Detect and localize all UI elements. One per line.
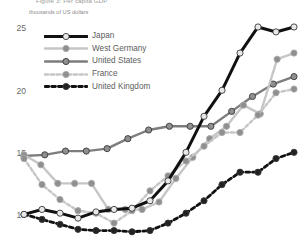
- data-point: [183, 158, 189, 164]
- data-point: [237, 169, 243, 175]
- data-point: [129, 229, 135, 235]
- figure-container: Figure 3: Per capita GDP thousands of US…: [0, 0, 299, 251]
- data-point: [291, 149, 297, 155]
- data-point: [273, 29, 279, 35]
- data-point: [156, 199, 162, 205]
- data-point: [111, 206, 117, 212]
- legend-item-japan[interactable]: Japan: [44, 30, 184, 43]
- data-point: [42, 152, 48, 158]
- data-point: [55, 180, 61, 186]
- data-point: [104, 146, 110, 152]
- data-point: [57, 210, 63, 216]
- legend-item-united-kingdom[interactable]: United Kingdom: [44, 80, 184, 93]
- data-point: [21, 211, 27, 217]
- data-point: [173, 175, 179, 181]
- data-point: [183, 149, 189, 155]
- data-point: [57, 221, 63, 227]
- legend-item-france[interactable]: France: [44, 68, 184, 81]
- data-point: [237, 129, 243, 135]
- legend-swatch-icon: [44, 56, 88, 67]
- data-point: [255, 24, 261, 30]
- data-point: [147, 227, 153, 233]
- data-point: [146, 127, 152, 133]
- data-point: [183, 210, 189, 216]
- data-point: [165, 178, 171, 184]
- data-point: [93, 227, 99, 233]
- legend-item-united-states[interactable]: United States: [44, 55, 184, 68]
- data-point: [291, 50, 297, 56]
- data-point: [219, 129, 225, 135]
- data-point: [166, 123, 172, 129]
- data-point: [255, 169, 261, 175]
- data-point: [75, 208, 81, 214]
- legend-swatch-icon: [44, 31, 88, 42]
- data-point: [75, 215, 81, 221]
- data-point: [147, 188, 153, 194]
- data-point: [273, 155, 279, 161]
- data-point: [83, 148, 89, 154]
- data-point: [255, 112, 261, 118]
- legend-item-label: United States: [88, 57, 141, 65]
- legend-item-label: United Kingdom: [88, 83, 150, 91]
- data-point: [111, 227, 117, 233]
- data-point: [88, 180, 94, 186]
- data-point: [93, 209, 99, 215]
- data-point: [229, 108, 235, 114]
- data-point: [57, 196, 63, 202]
- data-point: [291, 86, 297, 92]
- data-point: [62, 148, 68, 154]
- data-point: [129, 205, 135, 211]
- data-point: [223, 123, 229, 129]
- data-point: [240, 102, 246, 108]
- data-point: [139, 206, 145, 212]
- data-point: [274, 56, 280, 62]
- data-point: [165, 220, 171, 226]
- chart-legend: JapanWest GermanyUnited StatesFranceUnit…: [44, 30, 184, 93]
- data-point: [201, 198, 207, 204]
- data-point: [208, 123, 214, 129]
- legend-swatch-icon: [44, 69, 88, 80]
- data-point: [201, 113, 207, 119]
- data-point: [187, 123, 193, 129]
- data-point: [237, 50, 243, 56]
- data-point: [75, 226, 81, 232]
- data-point: [72, 180, 78, 186]
- data-point: [125, 136, 131, 142]
- data-point: [291, 74, 297, 80]
- data-point: [219, 182, 225, 188]
- legend-swatch-icon: [44, 81, 88, 92]
- data-point: [39, 182, 45, 188]
- data-point: [291, 24, 297, 30]
- data-point: [21, 155, 27, 161]
- data-point: [201, 143, 207, 149]
- legend-item-label: Japan: [88, 32, 114, 40]
- data-point: [273, 90, 279, 96]
- legend-item-label: West Germany: [88, 45, 146, 53]
- legend-item-west-germany[interactable]: West Germany: [44, 43, 184, 56]
- data-point: [111, 220, 117, 226]
- data-point: [39, 216, 45, 222]
- legend-swatch-icon: [44, 43, 88, 54]
- data-point: [147, 198, 153, 204]
- data-point: [38, 162, 44, 168]
- legend-item-label: France: [88, 70, 117, 78]
- data-point: [249, 93, 255, 99]
- data-point: [39, 206, 45, 212]
- data-point: [219, 87, 225, 93]
